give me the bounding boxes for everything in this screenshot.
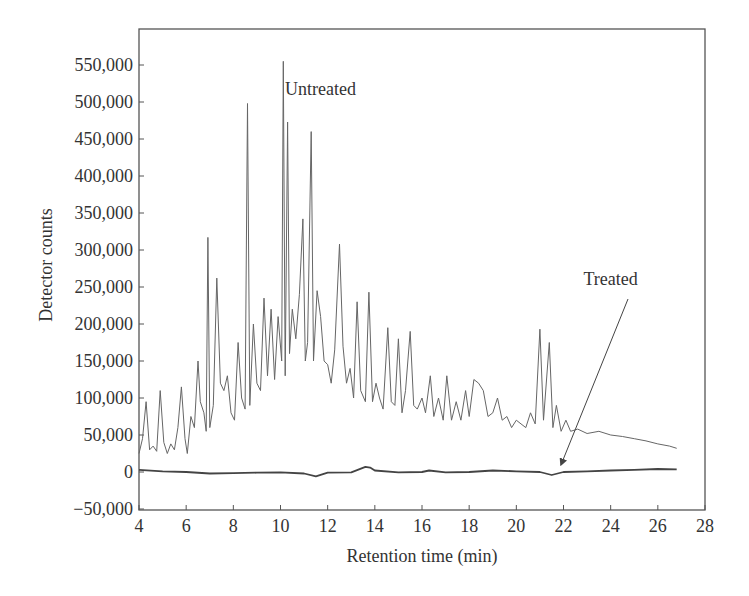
y-tick-label: 450,000 [75, 129, 134, 149]
x-tick-label: 24 [602, 516, 620, 536]
x-tick-label: 8 [229, 516, 238, 536]
y-tick-label: 50,000 [84, 425, 134, 445]
y-axis-title: Detector counts [36, 208, 56, 321]
y-tick-label: 100,000 [75, 388, 134, 408]
x-tick-label: 20 [507, 516, 525, 536]
x-tick-label: 4 [135, 516, 144, 536]
chromatogram-chart: −50,000050,000100,000150,000200,000250,0… [0, 0, 749, 596]
series-treated-line [139, 467, 677, 477]
x-tick-label: 22 [555, 516, 573, 536]
x-tick-label: 26 [649, 516, 667, 536]
x-tick-label: 28 [696, 516, 714, 536]
x-tick-label: 10 [272, 516, 290, 536]
y-tick-label: 250,000 [75, 277, 134, 297]
x-tick-label: 16 [413, 516, 431, 536]
y-tick-label: −50,000 [73, 499, 133, 519]
annotation-treated-label: Treated [584, 269, 638, 289]
x-tick-label: 6 [182, 516, 191, 536]
y-tick-label: 0 [124, 462, 133, 482]
x-tick-label: 12 [319, 516, 337, 536]
y-tick-label: 400,000 [75, 166, 134, 186]
x-tick-label: 14 [366, 516, 384, 536]
y-tick-label: 550,000 [75, 55, 134, 75]
y-tick-label: 350,000 [75, 203, 134, 223]
x-axis-title: Retention time (min) [347, 546, 498, 567]
y-tick-label: 150,000 [75, 351, 134, 371]
y-tick-label: 200,000 [75, 314, 134, 334]
y-tick-label: 500,000 [75, 92, 134, 112]
y-axis: −50,000050,000100,000150,000200,000250,0… [73, 55, 144, 519]
series-untreated-line [139, 61, 677, 453]
annotation-untreated-label: Untreated [285, 79, 356, 99]
y-tick-label: 300,000 [75, 240, 134, 260]
annotation-arrow [561, 299, 628, 465]
x-tick-label: 18 [460, 516, 478, 536]
